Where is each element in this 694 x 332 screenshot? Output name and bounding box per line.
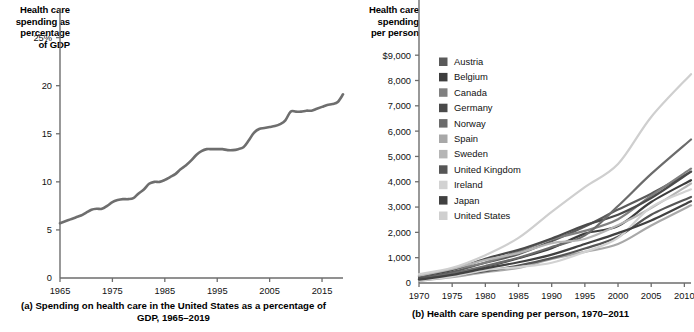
- panel-a-plot: 0510152025%196519751985199520052015: [0, 0, 347, 300]
- legend-label: Germany: [454, 102, 493, 113]
- legend-label: United Kingdom: [454, 164, 521, 175]
- panel-b-y-tick-label: 8,000: [388, 76, 411, 86]
- panel-a-x-tick-label: 1965: [50, 286, 71, 296]
- panel-b-x-tick-label: 1990: [541, 291, 562, 301]
- legend-swatch: [439, 73, 448, 82]
- legend-swatch: [439, 196, 448, 205]
- panel-b-y-tick-label: 2,000: [388, 228, 411, 238]
- figure-container: Health care spending as percentage of GD…: [0, 0, 694, 332]
- panel-a-x-tick-label: 1995: [207, 286, 228, 296]
- panel-a-y-tick-label: 15: [42, 129, 52, 139]
- panel-b-legend: AustriaBelgiumCanadaGermanyNorwaySpainSw…: [439, 56, 521, 221]
- legend-swatch: [439, 58, 448, 67]
- panel-a-y-tick-label: 10: [42, 177, 52, 187]
- panel-b-x-tick-label: 1995: [575, 291, 596, 301]
- panel-b-x-tick-label: 1975: [442, 291, 463, 301]
- panel-a-y-tick-label: 5: [47, 225, 52, 235]
- chart-panel-a: Health care spending as percentage of GD…: [0, 0, 347, 332]
- panel-a-caption: (a) Spending on health care in the Unite…: [0, 300, 347, 324]
- legend-swatch: [439, 150, 448, 159]
- panel-b-x-tick-label: 1970: [409, 291, 430, 301]
- legend-swatch: [439, 212, 448, 221]
- panel-b-x-tick-label: 2010: [674, 291, 694, 301]
- panel-b-y-tick-label: $9,000: [383, 51, 411, 61]
- legend-label: Japan: [454, 195, 480, 206]
- panel-b-y-tick-label: 6,000: [388, 127, 411, 137]
- legend-label: Belgium: [454, 71, 488, 82]
- panel-a-x-tick-label: 1975: [102, 286, 123, 296]
- panel-b-x-tick-label: 2005: [641, 291, 662, 301]
- panel-a-y-tick-label: 25%: [33, 33, 52, 43]
- panel-a-y-tick-label: 0: [47, 273, 52, 283]
- legend-swatch: [439, 135, 448, 144]
- legend-swatch: [439, 119, 448, 128]
- panel-b-x-tick-label: 1980: [475, 291, 496, 301]
- panel-a-data-line: [60, 94, 343, 223]
- panel-a-x-tick-label: 1985: [154, 286, 175, 296]
- chart-panel-b: Health care spending per person 01,0002,…: [347, 0, 694, 332]
- panel-b-y-tick-label: 0: [406, 278, 411, 288]
- panel-b-y-tick-label: 7,000: [388, 101, 411, 111]
- legend-swatch: [439, 88, 448, 97]
- panel-b-x-tick-label: 2000: [608, 291, 629, 301]
- legend-swatch: [439, 181, 448, 190]
- panel-b-plot: 01,0002,0003,0004,0005,0006,0007,0008,00…: [347, 0, 694, 308]
- panel-b-y-tick-label: 3,000: [388, 202, 411, 212]
- panel-b-y-tick-label: 5,000: [388, 152, 411, 162]
- panel-b-y-tick-label: 4,000: [388, 177, 411, 187]
- legend-label: Austria: [454, 56, 484, 67]
- panel-b-x-tick-label: 1985: [508, 291, 529, 301]
- legend-label: United States: [454, 210, 511, 221]
- legend-label: Canada: [454, 87, 488, 98]
- legend-label: Spain: [454, 133, 478, 144]
- legend-swatch: [439, 104, 448, 113]
- panel-a-x-tick-label: 2015: [312, 286, 333, 296]
- legend-swatch: [439, 165, 448, 174]
- panel-a-x-tick-label: 2005: [259, 286, 280, 296]
- panel-a-y-tick-label: 20: [42, 81, 52, 91]
- legend-label: Norway: [454, 118, 486, 129]
- panel-b-caption: (b) Health care spending per person, 197…: [347, 308, 694, 320]
- legend-label: Ireland: [454, 179, 483, 190]
- legend-label: Sweden: [454, 148, 488, 159]
- panel-b-y-tick-label: 1,000: [388, 253, 411, 263]
